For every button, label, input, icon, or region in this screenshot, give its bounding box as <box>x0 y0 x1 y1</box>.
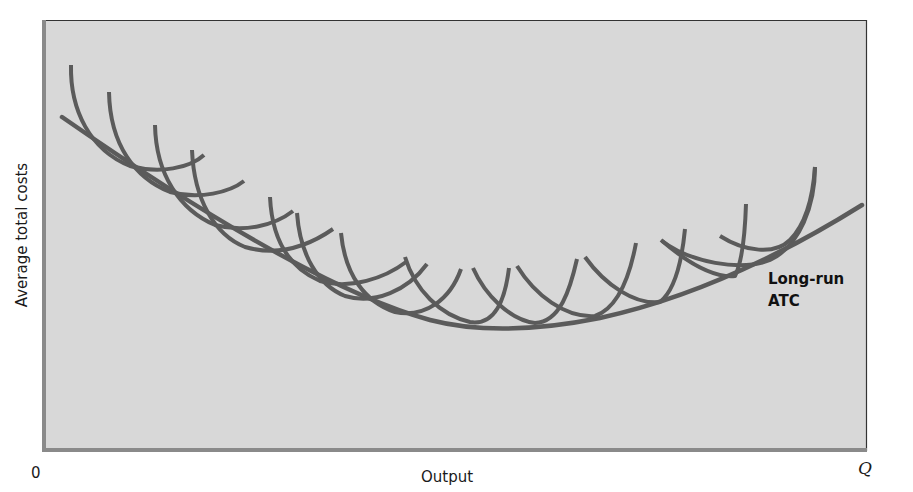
long-run-atc-label: Long-run ATC <box>768 268 844 312</box>
chart-canvas <box>0 0 913 492</box>
curve-label-line1: Long-run <box>768 268 844 290</box>
origin-label: 0 <box>31 464 41 482</box>
y-axis-label: Average total costs <box>13 163 31 307</box>
x-axis-label: Output <box>421 468 473 486</box>
x-axis-end-label: Q <box>858 458 872 478</box>
curve-label-line2: ATC <box>768 290 844 312</box>
